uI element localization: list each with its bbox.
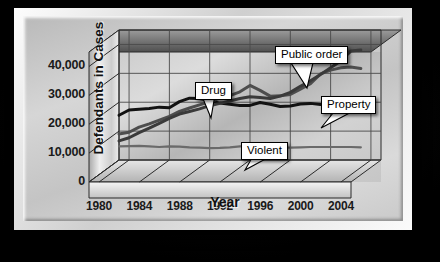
callout-violent: Violent xyxy=(241,142,288,160)
callout-property: Property xyxy=(321,96,376,114)
outer-frame-bevel: 010,00020,00030,00040,000 19801984198819… xyxy=(14,8,412,230)
callout-pointer xyxy=(291,63,313,88)
inner-frame-panel: 010,00020,00030,00040,000 19801984198819… xyxy=(23,16,403,221)
callout-pointer xyxy=(321,113,350,128)
chart-image-root: 010,00020,00030,00040,000 19801984198819… xyxy=(0,0,440,262)
chart-3d-box: 010,00020,00030,00040,000 19801984198819… xyxy=(49,30,401,216)
callout-drug: Drug xyxy=(195,82,232,100)
callout-pointer xyxy=(203,99,214,118)
callout-pointer xyxy=(245,159,265,170)
callout-public-order: Public order xyxy=(275,46,348,64)
